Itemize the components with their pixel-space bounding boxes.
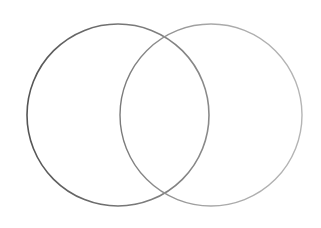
- venn-circle-left: [27, 24, 209, 206]
- venn-diagram: [0, 0, 321, 228]
- venn-circle-right: [120, 24, 302, 206]
